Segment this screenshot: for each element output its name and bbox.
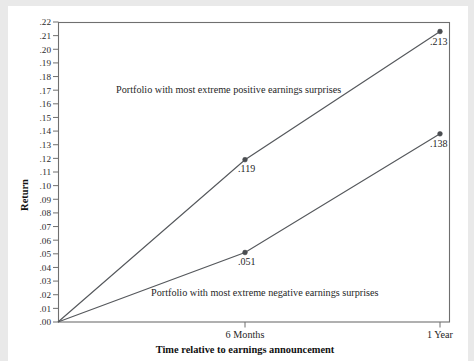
y-tick-label: .12 xyxy=(40,154,52,164)
x-axis-title: Time relative to earnings announcement xyxy=(156,344,335,355)
data-point-marker xyxy=(243,250,248,255)
y-tick-label: .22 xyxy=(40,17,52,27)
x-axis-ticks xyxy=(245,322,440,328)
data-point-label-119: .119 xyxy=(238,163,255,174)
y-tick-label: .08 xyxy=(40,208,52,218)
y-axis-title: Return xyxy=(19,179,30,211)
y-tick-label: .18 xyxy=(40,72,52,82)
y-tick-label: .07 xyxy=(40,222,52,232)
y-tick-label: .19 xyxy=(40,58,52,68)
series-line-positive xyxy=(58,32,440,323)
y-tick-label: .06 xyxy=(40,236,52,246)
y-tick-label: .02 xyxy=(40,290,52,300)
y-tick-label: .00 xyxy=(40,317,52,327)
data-point-marker xyxy=(438,131,443,136)
data-point-marker xyxy=(438,29,443,34)
y-tick-label: .20 xyxy=(40,45,52,55)
y-tick-label: .17 xyxy=(40,86,52,96)
y-axis-ticks xyxy=(53,22,59,322)
y-tick-label: .11 xyxy=(40,167,52,177)
data-point-label-138: .138 xyxy=(430,138,448,149)
y-tick-label: .05 xyxy=(40,249,52,259)
data-point-label-213: .213 xyxy=(430,36,448,47)
series-positive-earnings-surprises: .119 .213 xyxy=(58,29,448,322)
earnings-surprise-return-chart: .22 .21 .20 .19 .18 .17 .16 .15 .14 .13 … xyxy=(0,0,474,361)
x-tick-label-1-year: 1 Year xyxy=(427,329,454,340)
data-point-marker xyxy=(243,157,248,162)
y-axis-tick-labels: .22 .21 .20 .19 .18 .17 .16 .15 .14 .13 … xyxy=(40,17,52,327)
y-tick-label: .13 xyxy=(40,140,52,150)
y-tick-label: .09 xyxy=(40,195,52,205)
y-tick-label: .03 xyxy=(40,276,52,286)
x-tick-label-6-months: 6 Months xyxy=(226,329,265,340)
y-tick-label: .21 xyxy=(40,31,52,41)
y-tick-label: .14 xyxy=(40,126,52,136)
data-point-label-051: .051 xyxy=(238,256,256,267)
y-tick-label: .16 xyxy=(40,99,52,109)
annotation-positive-series: Portfolio with most extreme positive ear… xyxy=(116,84,341,95)
y-tick-label: .15 xyxy=(40,113,52,123)
y-tick-label: .04 xyxy=(40,263,52,273)
y-tick-label: .10 xyxy=(40,181,52,191)
screenshot-page: .22 .21 .20 .19 .18 .17 .16 .15 .14 .13 … xyxy=(0,0,474,361)
y-tick-label: .01 xyxy=(40,304,52,314)
annotation-negative-series: Portfolio with most extreme negative ear… xyxy=(151,287,379,298)
